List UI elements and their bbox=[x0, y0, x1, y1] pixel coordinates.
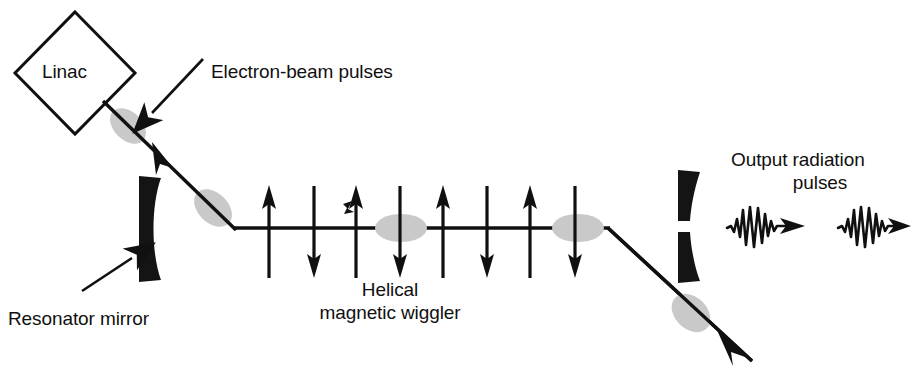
electron-beam-pulses-label: Electron-beam pulses bbox=[211, 60, 393, 83]
output-radiation-label-line1: Output radiation bbox=[731, 148, 865, 171]
left-resonator-mirror bbox=[139, 176, 161, 282]
output-radiation-label-line2: pulses bbox=[731, 171, 909, 194]
electron-beam-pulses-pointer bbox=[152, 59, 203, 113]
wiggler-magnet-arrow-up bbox=[436, 185, 450, 278]
output-radiation-pulse bbox=[727, 207, 805, 247]
output-radiation-pulse bbox=[838, 207, 911, 247]
wiggler-magnet-arrow-up bbox=[343, 185, 363, 278]
helical-wiggler-label-line1: Helical bbox=[290, 278, 490, 301]
helical-wiggler-label-line2: magnetic wiggler bbox=[290, 301, 490, 324]
wiggler-magnet-arrow-up bbox=[523, 185, 537, 278]
right-resonator-mirror-upper bbox=[678, 170, 700, 221]
beam-exit-arrowhead bbox=[717, 330, 748, 366]
wiggler-magnet-arrow-up bbox=[262, 185, 276, 278]
beam-direction-arrowhead bbox=[152, 142, 173, 175]
fel-schematic-figure: Linac Electron-beam pulses Resonator mir… bbox=[0, 0, 917, 375]
right-resonator-mirror-lower bbox=[678, 232, 700, 283]
resonator-mirror-pointer bbox=[82, 258, 132, 291]
resonator-mirror-label: Resonator mirror bbox=[8, 307, 149, 330]
electron-bunch bbox=[552, 214, 604, 242]
wiggler-magnet-arrow-down bbox=[307, 186, 321, 278]
linac-label: Linac bbox=[42, 60, 87, 83]
electron-bunch bbox=[664, 286, 718, 340]
wiggler-magnet-arrow-down bbox=[480, 186, 494, 278]
